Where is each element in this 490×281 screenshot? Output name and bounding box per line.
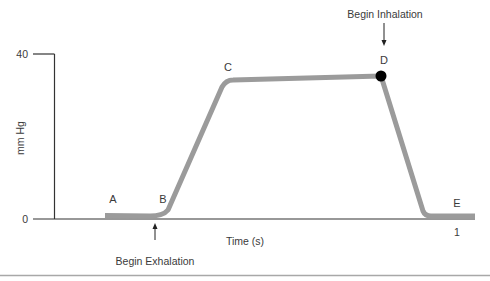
point-label-d: D — [380, 54, 388, 66]
point-d-marker — [376, 71, 387, 82]
x-axis-label: Time (s) — [226, 235, 264, 247]
begin-inhalation-annotation: Begin Inhalation — [347, 8, 422, 46]
begin-inhalation-label: Begin Inhalation — [347, 8, 422, 20]
y-tick-label-40: 40 — [16, 48, 28, 60]
x-tick-label-1: 1 — [454, 226, 460, 238]
point-label-a: A — [109, 193, 117, 205]
point-label-e: E — [453, 197, 460, 209]
x-axis: Time (s) 1 — [33, 219, 475, 247]
y-axis-label: mm Hg — [14, 121, 26, 155]
begin-exhalation-label: Begin Exhalation — [116, 255, 195, 267]
point-label-b: B — [159, 193, 166, 205]
y-tick-label-0: 0 — [22, 213, 28, 225]
capnogram-chart: 40 0 mm Hg Time (s) 1 A B C D E Begin Ex… — [0, 0, 490, 281]
up-arrowhead-icon — [153, 223, 158, 229]
down-arrowhead-icon — [382, 40, 387, 46]
point-label-c: C — [224, 61, 232, 73]
begin-exhalation-annotation: Begin Exhalation — [116, 223, 195, 267]
y-axis: 40 0 mm Hg — [14, 48, 55, 225]
